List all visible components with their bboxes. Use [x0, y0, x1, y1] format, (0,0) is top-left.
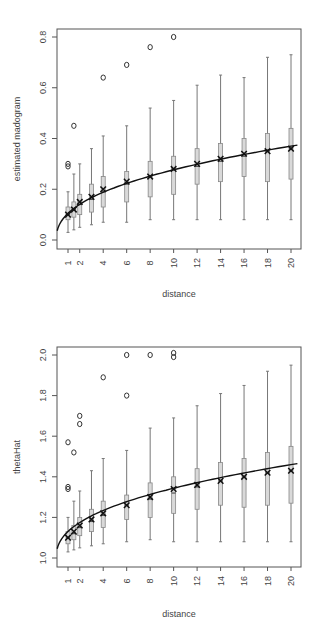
x-axis: 12468101214161820	[63, 567, 296, 586]
y-tick-label: 1.4	[38, 471, 48, 484]
x-tick-label: 2	[75, 260, 85, 265]
x-tick-label: 4	[98, 260, 108, 265]
x-tick-label: 10	[169, 576, 179, 586]
x-tick-label: 10	[169, 258, 179, 268]
boxplot-panel-2: 1.01.21.41.61.82.0thetaHat12468101214161…	[12, 347, 301, 619]
x-tick-label: 14	[216, 576, 226, 586]
y-tick-label: 1.8	[38, 389, 48, 402]
y-tick-label: 1.0	[38, 552, 48, 565]
outliers	[66, 350, 176, 491]
y-tick-label: 0.0	[38, 234, 48, 247]
x-tick-label: 16	[239, 258, 249, 268]
y-axis-label: thetaHat	[12, 439, 22, 474]
x-axis-label: distance	[162, 609, 196, 619]
x-tick-label: 16	[239, 576, 249, 586]
x-tick-label: 1	[63, 260, 73, 265]
fitted-curve	[57, 464, 297, 549]
y-tick-label: 2.0	[38, 349, 48, 362]
box-3	[89, 471, 93, 546]
plot-frame	[57, 347, 301, 567]
mean-markers	[65, 468, 294, 541]
box-14	[219, 75, 223, 220]
x-axis-label: distance	[162, 289, 196, 299]
x-tick-label: 14	[216, 258, 226, 268]
x-tick-label: 1	[63, 578, 73, 583]
box-4	[101, 136, 105, 222]
boxplot-panel-1: 0.00.20.40.60.8estimated madogram1246810…	[12, 29, 301, 299]
outliers	[66, 34, 176, 169]
x-tick-label: 6	[122, 578, 132, 583]
x-tick-label: 20	[286, 258, 296, 268]
x-tick-label: 18	[263, 576, 273, 586]
x-tick-label: 8	[145, 260, 155, 265]
y-tick-label: 1.2	[38, 511, 48, 524]
y-axis: 0.00.20.40.60.8	[38, 31, 57, 247]
box-18	[266, 57, 270, 219]
y-axis-label: estimated madogram	[12, 97, 22, 182]
box-20	[289, 365, 293, 542]
x-tick-label: 12	[192, 576, 202, 586]
box-12	[195, 85, 199, 219]
box-3	[89, 149, 93, 225]
box-16	[242, 385, 246, 541]
x-tick-label: 8	[145, 578, 155, 583]
y-tick-label: 1.6	[38, 430, 48, 443]
y-tick-label: 0.2	[38, 183, 48, 196]
box-4	[101, 459, 105, 544]
x-tick-label: 18	[263, 258, 273, 268]
box-10	[172, 100, 176, 219]
madogram-chart-figure: 0.00.20.40.60.8estimated madogram1246810…	[0, 0, 324, 633]
plot-frame	[57, 29, 301, 249]
x-tick-label: 20	[286, 576, 296, 586]
y-tick-label: 0.8	[38, 31, 48, 44]
x-tick-label: 4	[98, 578, 108, 583]
box-18	[266, 371, 270, 542]
y-tick-label: 0.6	[38, 81, 48, 94]
box-8	[148, 108, 152, 220]
x-tick-label: 6	[122, 260, 132, 265]
x-axis: 12468101214161820	[63, 249, 296, 268]
box-10	[172, 418, 176, 542]
box-16	[242, 78, 246, 220]
box-1.5	[72, 174, 76, 230]
box-2	[78, 164, 82, 227]
box-12	[195, 406, 199, 542]
x-tick-label: 2	[75, 578, 85, 583]
box-2	[78, 491, 82, 548]
box-6	[125, 450, 129, 541]
x-tick-label: 12	[192, 258, 202, 268]
box-14	[219, 394, 223, 542]
box-8	[148, 428, 152, 540]
box-20	[289, 55, 293, 220]
y-axis: 1.01.21.41.61.82.0	[38, 349, 57, 565]
y-tick-label: 0.4	[38, 132, 48, 145]
mean-markers	[65, 146, 294, 218]
box-1	[66, 517, 70, 552]
box-6	[125, 126, 129, 222]
